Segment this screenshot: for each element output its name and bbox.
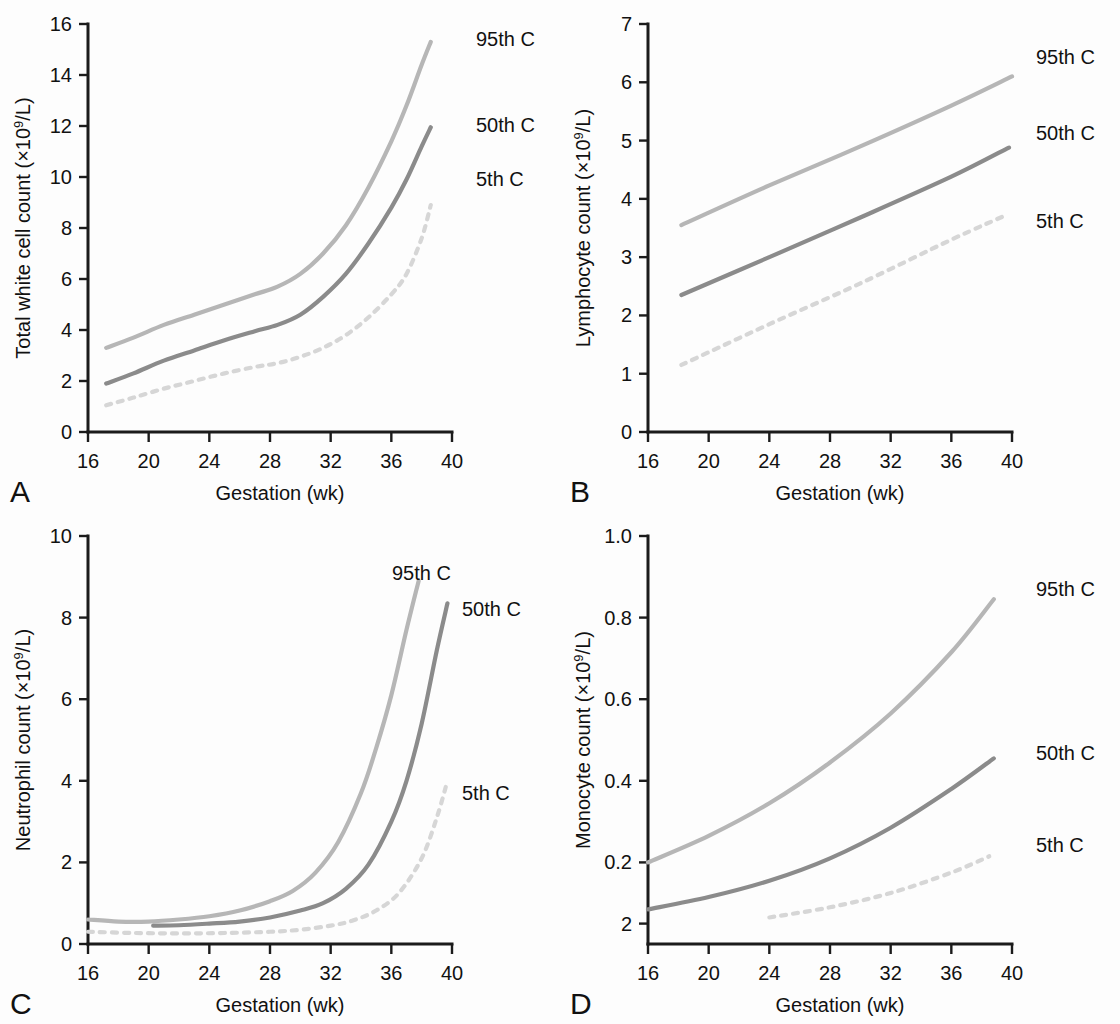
x-axis-title: Gestation (wk)	[776, 482, 905, 504]
y-tick-label: 2	[621, 304, 632, 326]
series-label-50th-c: 50th C	[462, 598, 521, 620]
x-axis-title: Gestation (wk)	[216, 994, 345, 1016]
series-label-95th-c: 95th C	[1036, 46, 1095, 68]
y-tick-label: 10	[50, 525, 72, 547]
series-line-95th-c	[648, 599, 994, 862]
y-tick-label: 4	[621, 188, 632, 210]
x-tick-label: 16	[637, 962, 659, 984]
panel-d: 1.00.80.60.40.221620242832364095th C50th…	[560, 512, 1120, 1024]
chart-d: 1.00.80.60.40.221620242832364095th C50th…	[560, 512, 1120, 1024]
series-line-50th-c	[106, 127, 431, 383]
panel-letter-d: D	[570, 987, 592, 1020]
y-tick-label: 0	[61, 421, 72, 443]
x-tick-label: 36	[380, 450, 402, 472]
series-line-50th-c	[648, 758, 994, 909]
y-tick-label: 2	[621, 913, 632, 935]
y-axis-title: Lymphocyte count (×109/L)	[571, 109, 594, 347]
y-tick-label: 16	[50, 13, 72, 35]
x-tick-label: 24	[758, 450, 780, 472]
series-label-50th-c: 50th C	[1036, 122, 1095, 144]
series-label-5th-c: 5th C	[462, 782, 510, 804]
x-tick-label: 28	[819, 450, 841, 472]
series-line-5th-c	[88, 781, 447, 934]
panel-a: 02468101214161620242832364095th C50th C5…	[0, 0, 560, 512]
y-tick-label: 0	[621, 421, 632, 443]
y-tick-label: 0	[61, 933, 72, 955]
series-line-5th-c	[681, 215, 1006, 365]
x-tick-label: 24	[758, 962, 780, 984]
y-tick-label: 4	[61, 319, 72, 341]
y-tick-label: 0.2	[604, 851, 632, 873]
panel-letter-a: A	[10, 475, 30, 508]
x-tick-label: 36	[380, 962, 402, 984]
series-label-50th-c: 50th C	[1036, 742, 1095, 764]
y-tick-label: 8	[61, 607, 72, 629]
series-label-50th-c: 50th C	[476, 114, 535, 136]
y-tick-label: 0.8	[604, 607, 632, 629]
y-tick-label: 10	[50, 166, 72, 188]
x-tick-label: 24	[198, 450, 220, 472]
panel-letter-c: C	[10, 987, 32, 1020]
series-label-95th-c: 95th C	[476, 28, 535, 50]
series-line-95th-c	[88, 581, 419, 922]
y-tick-label: 12	[50, 115, 72, 137]
x-tick-label: 40	[1001, 962, 1023, 984]
x-tick-label: 40	[1001, 450, 1023, 472]
figure-container: 02468101214161620242832364095th C50th C5…	[0, 0, 1120, 1024]
y-tick-label: 8	[61, 217, 72, 239]
x-axis-title: Gestation (wk)	[216, 482, 345, 504]
x-tick-label: 32	[880, 450, 902, 472]
x-tick-label: 28	[259, 962, 281, 984]
series-label-5th-c: 5th C	[1036, 210, 1084, 232]
y-axis-title: Monocyte count (×109/L)	[571, 631, 594, 849]
x-tick-label: 32	[320, 450, 342, 472]
x-tick-label: 32	[880, 962, 902, 984]
y-axis-title: Total white cell count (×109/L)	[11, 97, 34, 358]
y-tick-label: 6	[621, 71, 632, 93]
x-tick-label: 20	[138, 962, 160, 984]
x-tick-label: 24	[198, 962, 220, 984]
x-tick-label: 28	[819, 962, 841, 984]
chart-a: 02468101214161620242832364095th C50th C5…	[0, 0, 560, 512]
x-tick-label: 20	[698, 450, 720, 472]
y-tick-label: 2	[61, 851, 72, 873]
x-tick-label: 40	[441, 450, 463, 472]
x-tick-label: 16	[77, 962, 99, 984]
y-tick-label: 6	[61, 268, 72, 290]
y-tick-label: 3	[621, 246, 632, 268]
x-tick-label: 16	[77, 450, 99, 472]
x-tick-label: 36	[940, 962, 962, 984]
y-tick-label: 6	[61, 688, 72, 710]
y-tick-label: 1	[621, 363, 632, 385]
x-tick-label: 20	[698, 962, 720, 984]
series-label-95th-c: 95th C	[1036, 578, 1095, 600]
panel-letter-b: B	[570, 475, 590, 508]
y-tick-label: 14	[50, 64, 72, 86]
y-tick-label: 5	[621, 130, 632, 152]
series-label-5th-c: 5th C	[476, 168, 524, 190]
x-tick-label: 40	[441, 962, 463, 984]
panel-c: 02468101620242832364095th C50th C5th CNe…	[0, 512, 560, 1024]
x-tick-label: 28	[259, 450, 281, 472]
y-tick-label: 1.0	[604, 525, 632, 547]
y-tick-label: 0.4	[604, 770, 632, 792]
series-line-5th-c	[106, 205, 431, 405]
chart-c: 02468101620242832364095th C50th C5th CNe…	[0, 512, 560, 1024]
x-axis-title: Gestation (wk)	[776, 994, 905, 1016]
y-tick-label: 0.6	[604, 688, 632, 710]
x-tick-label: 16	[637, 450, 659, 472]
series-line-95th-c	[681, 76, 1012, 225]
series-line-5th-c	[769, 856, 989, 917]
x-tick-label: 20	[138, 450, 160, 472]
y-axis-title: Neutrophil count (×109/L)	[11, 629, 34, 851]
x-tick-label: 36	[940, 450, 962, 472]
panel-b: 012345671620242832364095th C50th C5th CL…	[560, 0, 1120, 512]
y-tick-label: 4	[61, 770, 72, 792]
chart-b: 012345671620242832364095th C50th C5th CL…	[560, 0, 1120, 512]
x-tick-label: 32	[320, 962, 342, 984]
y-tick-label: 2	[61, 370, 72, 392]
y-tick-label: 7	[621, 13, 632, 35]
series-line-50th-c	[681, 148, 1009, 295]
series-label-95th-c: 95th C	[392, 562, 451, 584]
series-label-5th-c: 5th C	[1036, 834, 1084, 856]
